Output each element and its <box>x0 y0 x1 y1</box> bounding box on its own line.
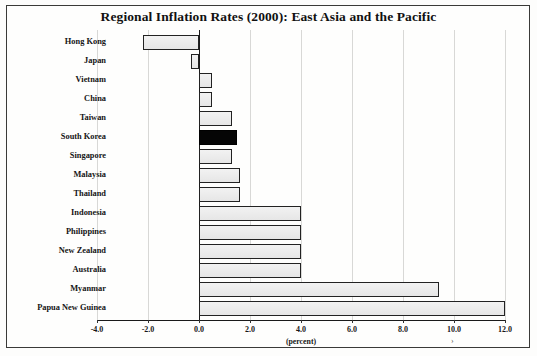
category-label-south-korea: South Korea <box>0 132 106 142</box>
gridline <box>301 30 302 320</box>
figure-container: Regional Inflation Rates (2000): East As… <box>0 0 537 356</box>
x-axis-tick-label: 10.0 <box>434 325 474 334</box>
category-label-papua-new-guinea: Papua New Guinea <box>0 303 106 313</box>
x-axis-tick <box>403 320 404 323</box>
bar-singapore <box>199 149 232 164</box>
gridline <box>454 30 455 320</box>
bar-myanmar <box>199 282 439 297</box>
bar-philippines <box>199 225 301 240</box>
category-label-china: China <box>0 94 106 104</box>
category-label-indonesia: Indonesia <box>0 208 106 218</box>
x-axis-tick <box>454 320 455 323</box>
gridline <box>148 30 149 320</box>
x-axis-tick <box>352 320 353 323</box>
x-axis-tick <box>148 320 149 323</box>
bar-china <box>199 92 212 107</box>
x-axis-tick-label: 4.0 <box>281 325 321 334</box>
bar-south-korea <box>199 130 237 145</box>
category-label-hong-kong: Hong Kong <box>0 37 106 47</box>
bar-australia <box>199 263 301 278</box>
category-label-vietnam: Vietnam <box>0 75 106 85</box>
gridline <box>352 30 353 320</box>
bar-taiwan <box>199 111 232 126</box>
category-label-myanmar: Myanmar <box>0 284 106 294</box>
bar-thailand <box>199 187 240 202</box>
x-axis-tick-label: 12.0 <box>485 325 525 334</box>
x-axis-tick-label: 6.0 <box>332 325 372 334</box>
x-axis-tick <box>250 320 251 323</box>
scan-artifact-mark: › <box>451 336 454 345</box>
category-label-japan: Japan <box>0 56 106 66</box>
gridline <box>505 30 506 320</box>
x-axis-tick-label: 8.0 <box>383 325 423 334</box>
category-label-singapore: Singapore <box>0 151 106 161</box>
bar-malaysia <box>199 168 240 183</box>
x-axis-tick-label: -2.0 <box>128 325 168 334</box>
bar-vietnam <box>199 73 212 88</box>
x-axis-title: (percent) <box>241 337 361 346</box>
category-label-australia: Australia <box>0 265 106 275</box>
bar-indonesia <box>199 206 301 221</box>
gridline <box>403 30 404 320</box>
bar-papua-new-guinea <box>199 301 505 316</box>
bar-new-zealand <box>199 244 301 259</box>
category-label-thailand: Thailand <box>0 189 106 199</box>
x-axis-tick-label: 0.0 <box>179 325 219 334</box>
x-axis-tick <box>199 320 200 323</box>
x-axis-tick <box>301 320 302 323</box>
category-label-new-zealand: New Zealand <box>0 246 106 256</box>
category-label-taiwan: Taiwan <box>0 113 106 123</box>
x-axis-tick-label: -4.0 <box>77 325 117 334</box>
bar-japan <box>191 54 199 69</box>
bar-hong-kong <box>143 35 199 50</box>
x-axis-tick-label: 2.0 <box>230 325 270 334</box>
plot-area: (percent) › -4.0-2.00.02.04.06.08.010.01… <box>0 0 537 356</box>
x-axis-tick <box>505 320 506 323</box>
x-axis-tick <box>97 320 98 323</box>
category-label-malaysia: Malaysia <box>0 170 106 180</box>
category-label-philippines: Philippines <box>0 227 106 237</box>
